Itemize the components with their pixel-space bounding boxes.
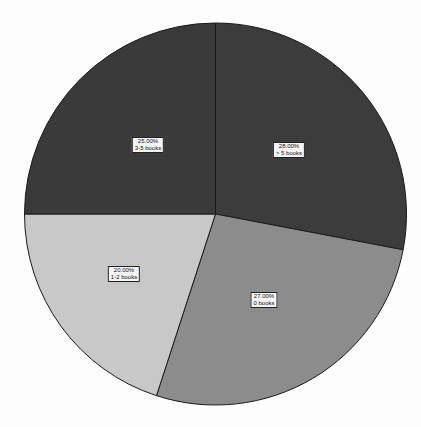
- slice-label-1-2-books: 20.00% 1-2 books: [108, 266, 140, 282]
- slice-label-more-than-5-books: 28.00% > 5 books: [273, 142, 305, 158]
- pie-chart: [0, 0, 421, 427]
- slice-percent: 25.00%: [135, 138, 161, 145]
- slice-percent: 28.00%: [276, 143, 302, 150]
- slice-name: 3-5 books: [135, 145, 161, 152]
- slice-more-than-5-books: [216, 23, 407, 250]
- slice-label-3-5-books: 25.00% 3-5 books: [132, 137, 164, 153]
- slice-percent: 27.00%: [253, 293, 274, 300]
- slice-name: 1-2 books: [111, 274, 137, 281]
- slice-name: 0 books: [253, 300, 274, 307]
- slice-name: > 5 books: [276, 150, 302, 157]
- slice-percent: 20.00%: [111, 267, 137, 274]
- slice-label-0-books: 27.00% 0 books: [250, 292, 277, 308]
- slice-3-5-books: [25, 23, 216, 214]
